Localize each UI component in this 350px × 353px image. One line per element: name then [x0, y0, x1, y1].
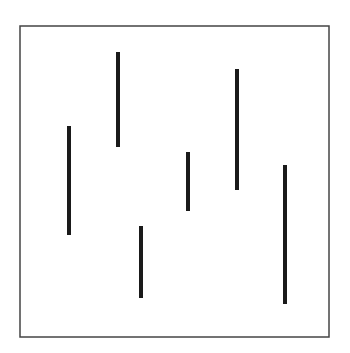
vertical-lines-figure [0, 0, 350, 353]
figure-background [0, 0, 350, 353]
